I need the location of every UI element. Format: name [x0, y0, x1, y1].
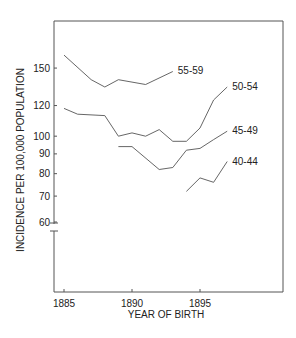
- y-tick-label: 90: [39, 148, 51, 159]
- series-label-50-54: 50-54: [232, 81, 258, 92]
- series-label-55-59: 55-59: [178, 65, 204, 76]
- y-tick-label: 80: [39, 168, 51, 179]
- series-line-55-59: [64, 55, 173, 87]
- y-tick-label: 120: [33, 100, 50, 111]
- series-line-45-49: [118, 131, 227, 169]
- series-labels: 55-5950-5445-4940-44: [178, 65, 258, 166]
- y-tick-label: 70: [39, 191, 51, 202]
- x-tick-label: 1895: [189, 298, 212, 309]
- y-tick-label: 150: [33, 63, 50, 74]
- y-axis-title: INCIDENCE PER 100,000 POPULATION: [15, 68, 26, 252]
- x-tick-label: 1885: [53, 298, 76, 309]
- series-line-50-54: [64, 87, 227, 141]
- y-tick-label: 100: [33, 131, 50, 142]
- series-label-40-44: 40-44: [232, 156, 258, 167]
- x-tick-label: 1890: [121, 298, 144, 309]
- chart: 60708090100120150 188518901895 55-5950-5…: [0, 0, 296, 338]
- y-axis-ticks: 60708090100120150: [33, 63, 57, 228]
- series-line-40-44: [186, 162, 227, 192]
- x-axis-title: YEAR OF BIRTH: [128, 309, 205, 320]
- series-label-45-49: 45-49: [232, 125, 258, 136]
- y-tick-label: 60: [39, 217, 51, 228]
